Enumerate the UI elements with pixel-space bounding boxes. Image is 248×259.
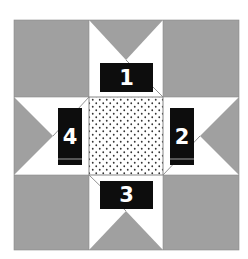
label-2-text: 2	[175, 125, 190, 149]
label-4: 4	[58, 108, 82, 165]
center-square	[89, 97, 163, 175]
label-1-text: 1	[119, 66, 134, 90]
label-3-text: 3	[119, 183, 134, 207]
label-2: 2	[170, 108, 194, 165]
label-3: 3	[100, 181, 153, 209]
label-4-text: 4	[63, 125, 78, 149]
quilt-block-diagram	[0, 0, 248, 259]
label-1: 1	[100, 63, 153, 92]
